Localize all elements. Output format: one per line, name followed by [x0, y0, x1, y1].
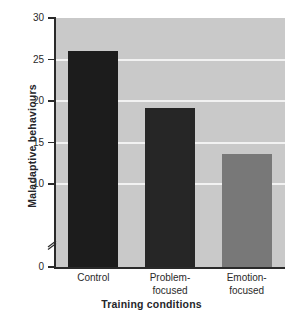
y-tick-mark — [48, 183, 54, 185]
plot-area — [55, 18, 285, 267]
x-tick-label: Emotion-focused — [204, 272, 290, 297]
bar-chart-figure: Maladaptive behaviours 01015202530 Contr… — [0, 0, 303, 314]
y-tick-mark — [48, 100, 54, 102]
x-tick-label-line: focused — [127, 285, 213, 298]
y-tick-mark — [48, 266, 54, 268]
y-tick-label: 20 — [4, 96, 44, 106]
bar — [68, 51, 118, 267]
x-axis-line — [54, 267, 285, 269]
x-tick-label: Control — [50, 272, 136, 285]
y-tick-mark — [48, 59, 54, 61]
x-tick-label: Problem-focused — [127, 272, 213, 297]
y-tick-mark — [48, 17, 54, 19]
x-tick-label-line: Emotion- — [204, 272, 290, 285]
y-tick-label: 15 — [4, 138, 44, 148]
y-tick-label: 25 — [4, 55, 44, 65]
y-tick-mark — [48, 142, 54, 144]
x-tick-label-line: focused — [204, 285, 290, 298]
y-tick-label: 30 — [4, 13, 44, 23]
bar — [145, 108, 195, 267]
y-tick-label: 0 — [4, 262, 44, 272]
x-tick-label-line: Problem- — [127, 272, 213, 285]
y-axis-line — [54, 17, 56, 268]
bar — [222, 154, 272, 267]
x-axis-title: Training conditions — [0, 298, 303, 310]
y-tick-label: 10 — [4, 179, 44, 189]
x-tick-label-line: Control — [50, 272, 136, 285]
